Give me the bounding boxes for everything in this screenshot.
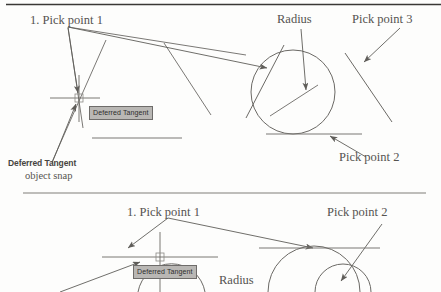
bottom-leader-pickpoint2 — [341, 224, 382, 281]
tangent-line-left — [246, 45, 284, 118]
snap-sublabel: object snap — [25, 170, 73, 181]
snap-name-label: Deferred Tangent — [8, 158, 76, 168]
top-right-geometry — [246, 45, 392, 134]
bottom-left-geometry — [60, 232, 218, 292]
label-pick-point-1-bottom: 1. Pick point 1 — [127, 206, 200, 219]
label-pick-point-2-top: Pick point 2 — [339, 151, 399, 164]
figure-vector-layer — [0, 0, 441, 292]
radius-line — [270, 85, 318, 116]
label-pick-point-1-top: 1. Pick point 1 — [30, 14, 103, 27]
deferred-tangent-tooltip-top: Deferred Tangent — [89, 106, 153, 120]
leader-pickpoint3 — [364, 28, 400, 62]
top-left-leaders — [52, 28, 78, 163]
bottom-big-arc — [268, 246, 360, 292]
leader-to-circle-tangent — [68, 27, 267, 68]
label-radius-top: Radius — [277, 13, 312, 26]
tangent-line-right — [345, 53, 392, 122]
bottom-leader-pickpoint1-right — [168, 218, 313, 248]
label-pick-point-3-top: Pick point 3 — [352, 13, 412, 26]
deferred-tangent-tooltip-bottom: Deferred Tangent — [133, 265, 197, 279]
leader-radius — [301, 29, 306, 90]
leader-pickpoint1-to-crosshair — [68, 28, 78, 93]
construction-line-left — [68, 27, 83, 128]
top-long-leader — [68, 27, 267, 68]
construction-line-right — [164, 43, 211, 115]
bottom-small-arc — [315, 264, 371, 292]
bottom-leader-pickpoint1-left — [128, 218, 168, 248]
bottom-crosshair-pickbox — [156, 253, 164, 261]
bottom-right-geometry — [259, 246, 380, 292]
page-root: 1. Pick point 1 Radius Pick point 3 Pick… — [0, 0, 441, 292]
construction-line-mid — [52, 40, 106, 162]
construction-line-upper — [68, 27, 246, 55]
label-pick-point-2-bottom: Pick point 2 — [327, 206, 387, 219]
label-radius-bottom: Radius — [219, 274, 254, 287]
top-right-leaders — [301, 28, 400, 157]
leader-snapname-to-crosshair — [52, 104, 76, 163]
bottom-leader-from-lower-left — [60, 262, 140, 292]
crosshair-pickbox — [75, 94, 83, 102]
top-left-geometry — [52, 27, 246, 162]
result-circle — [251, 50, 335, 134]
